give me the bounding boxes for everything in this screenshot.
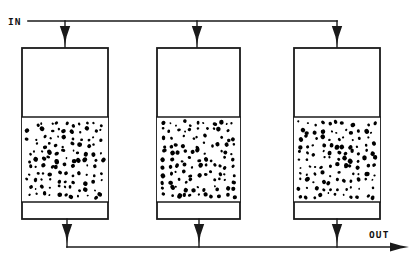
bed-particle [335,162,339,166]
outlet-label: OUT [369,229,389,240]
inlet-arrow-2 [192,26,202,46]
vessel-2 [157,48,240,219]
outlet-arrow-1 [62,224,72,244]
inlet-label: IN [8,16,22,27]
bed-particle [230,153,232,155]
vessel-1 [22,48,108,219]
bed-particle [219,120,224,125]
outlet-arrow-3 [332,224,342,244]
outlet-arrow-2 [194,224,204,244]
vessel-group [22,48,380,219]
bed-particle [328,139,331,141]
inlet-manifold [28,21,342,48]
vessel-3 [294,48,380,219]
flow-diagram-svg: INOUT [0,0,413,271]
inlet-arrow-1 [60,26,70,46]
bed-particle [218,178,221,181]
inlet-arrow-3 [332,26,342,46]
outlet-terminal-arrow [390,242,409,251]
bed-particle [69,185,72,189]
flow-diagram-canvas: INOUT [0,0,413,271]
bed-particle [362,155,367,160]
outlet-manifold [62,219,409,252]
